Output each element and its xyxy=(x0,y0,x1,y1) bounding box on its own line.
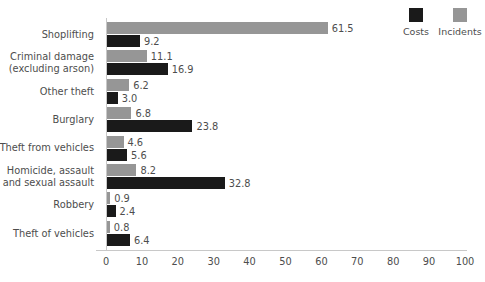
category-label: Theft from vehicles xyxy=(0,142,94,155)
category-label: Robbery xyxy=(53,199,94,212)
x-tick-label: 80 xyxy=(387,256,399,268)
bar-value-label: 11.1 xyxy=(151,51,173,63)
bar-costs xyxy=(107,92,118,104)
category-label-line: Theft from vehicles xyxy=(0,142,94,155)
bar-incidents xyxy=(107,136,124,148)
bar-incidents xyxy=(107,22,328,34)
bar-value-label: 61.5 xyxy=(332,23,354,35)
bar-costs xyxy=(107,35,140,47)
category-label-line: Homicide, assault xyxy=(3,165,94,178)
bar-value-label: 16.9 xyxy=(172,64,194,76)
bar-value-label: 6.8 xyxy=(135,108,151,120)
bar-value-label: 6.4 xyxy=(134,235,150,247)
bar-value-label: 0.9 xyxy=(114,193,130,205)
bar-value-label: 2.4 xyxy=(120,206,136,218)
category-label-line: Other theft xyxy=(40,86,94,99)
category-label-line: Theft of vehicles xyxy=(13,228,94,241)
category-label-line: and sexual assault xyxy=(3,177,94,190)
category-label-line: Criminal damage xyxy=(9,51,94,64)
category-label: Theft of vehicles xyxy=(13,228,94,241)
plot-area: 61.59.211.116.96.23.06.823.84.65.68.232.… xyxy=(106,18,465,250)
x-tick-label: 10 xyxy=(136,256,148,268)
category-label: Homicide, assaultand sexual assault xyxy=(3,165,94,190)
bar-incidents xyxy=(107,192,110,204)
category-label-line: Shoplifting xyxy=(42,29,94,42)
category-axis-labels: ShopliftingCriminal damage(excluding ars… xyxy=(0,18,100,250)
category-label: Criminal damage(excluding arson) xyxy=(9,51,94,76)
category-label: Other theft xyxy=(40,86,94,99)
x-tick-label: 70 xyxy=(351,256,363,268)
x-tick-label: 100 xyxy=(456,256,475,268)
bar-value-label: 4.6 xyxy=(128,137,144,149)
x-axis-ticks: 0102030405060708090100 xyxy=(106,252,465,272)
x-axis-line xyxy=(96,250,467,251)
bar-incidents xyxy=(107,164,136,176)
bar-value-label: 32.8 xyxy=(229,178,251,190)
bar-incidents xyxy=(107,79,129,91)
x-tick-label: 30 xyxy=(207,256,219,268)
bar-costs xyxy=(107,205,116,217)
x-tick-label: 90 xyxy=(423,256,435,268)
bar-costs xyxy=(107,234,130,246)
bar-costs xyxy=(107,149,127,161)
category-label-line: (excluding arson) xyxy=(9,63,94,76)
bar-costs xyxy=(107,63,168,75)
x-tick-label: 0 xyxy=(103,256,109,268)
bar-value-label: 0.8 xyxy=(114,222,130,234)
bar-chart: Costs Incidents ShopliftingCriminal dama… xyxy=(0,0,485,282)
bar-value-label: 5.6 xyxy=(131,150,147,162)
bar-costs xyxy=(107,177,225,189)
category-label-line: Burglary xyxy=(52,114,94,127)
bar-value-label: 6.2 xyxy=(133,80,149,92)
bar-costs xyxy=(107,120,192,132)
x-tick-label: 20 xyxy=(172,256,184,268)
category-label: Shoplifting xyxy=(42,29,94,42)
bar-incidents xyxy=(107,107,131,119)
bar-incidents xyxy=(107,221,110,233)
bar-value-label: 23.8 xyxy=(196,121,218,133)
bar-value-label: 9.2 xyxy=(144,36,160,48)
bar-incidents xyxy=(107,50,147,62)
x-tick-label: 40 xyxy=(243,256,255,268)
category-label-line: Robbery xyxy=(53,199,94,212)
bar-value-label: 3.0 xyxy=(122,93,138,105)
x-tick-label: 60 xyxy=(315,256,327,268)
x-tick-label: 50 xyxy=(279,256,291,268)
bar-value-label: 8.2 xyxy=(140,165,156,177)
category-label: Burglary xyxy=(52,114,94,127)
